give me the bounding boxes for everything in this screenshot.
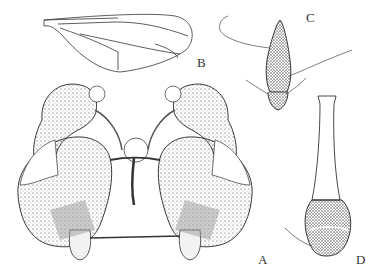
panel-label-b: B [197,55,206,71]
illustration-drawings [0,0,371,274]
figure-plate: B C A D [0,0,371,274]
genitalia-drawing-a [18,84,252,260]
panel-label-a: A [258,252,267,268]
panel-label-d: D [356,252,365,268]
left-gonocoxite [18,84,112,260]
stalk-drawing-d [285,96,351,256]
wing-drawing-b [44,14,192,72]
right-gonocoxite [158,84,252,260]
panel-label-c: C [306,10,315,26]
